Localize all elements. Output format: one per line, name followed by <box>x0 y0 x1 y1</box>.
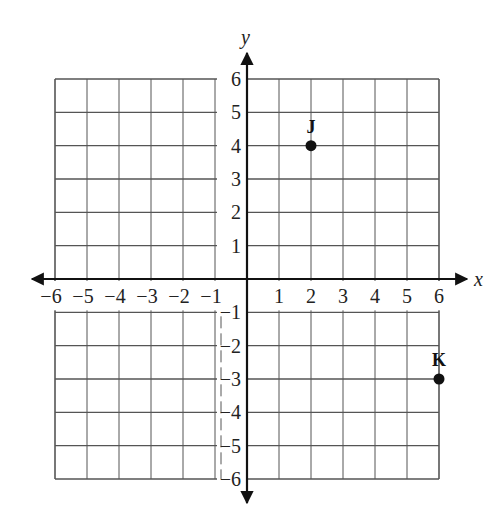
x-tick-label: 2 <box>306 285 316 307</box>
x-tick-label: 6 <box>434 285 444 307</box>
x-tick-label: −3 <box>136 285 157 307</box>
y-tick-label: 5 <box>231 101 241 123</box>
y-tick-label: 1 <box>231 235 241 257</box>
y-tick-label: 3 <box>231 168 241 190</box>
axes: xy <box>32 26 483 503</box>
y-axis-label: y <box>239 26 250 49</box>
point-K <box>434 373 445 384</box>
y-tick-label: −6 <box>220 468 241 490</box>
x-tick-label: −6 <box>40 285 61 307</box>
coordinate-plane: xy −6−5−4−3−2−1123456654321−1−2−3−4−5−6 … <box>0 0 501 526</box>
y-tick-label: −3 <box>220 368 241 390</box>
x-tick-label: −4 <box>104 285 125 307</box>
x-tick-label: 4 <box>370 285 380 307</box>
point-label-K: K <box>432 350 446 370</box>
y-tick-label: −2 <box>220 335 241 357</box>
x-tick-label: 5 <box>402 285 412 307</box>
x-tick-label: −1 <box>200 285 221 307</box>
x-tick-label: 1 <box>274 285 284 307</box>
y-tick-label: 6 <box>231 68 241 90</box>
y-tick-label: −1 <box>220 301 241 323</box>
data-points: JK <box>306 117 447 385</box>
y-tick-label: −5 <box>220 435 241 457</box>
x-tick-label: 3 <box>338 285 348 307</box>
y-tick-label: 4 <box>231 135 241 157</box>
y-tick-label: −4 <box>220 401 241 423</box>
x-tick-label: −2 <box>168 285 189 307</box>
x-tick-label: −5 <box>72 285 93 307</box>
point-J <box>306 140 317 151</box>
x-axis-label: x <box>473 268 483 290</box>
point-label-J: J <box>307 117 316 137</box>
y-tick-label: 2 <box>231 201 241 223</box>
